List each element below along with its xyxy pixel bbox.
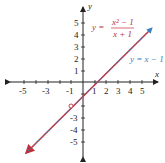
svg-text:-5: -5 bbox=[19, 86, 27, 96]
linear-equation-label: y = x − 1 bbox=[129, 54, 164, 64]
x-axis-label: x bbox=[154, 69, 159, 79]
svg-text:3: 3 bbox=[116, 86, 121, 96]
svg-text:5: 5 bbox=[74, 18, 79, 28]
svg-text:-3: -3 bbox=[42, 86, 50, 96]
rational-equation-label: y = x² − 1 x + 1 bbox=[91, 17, 134, 39]
svg-text:-5: -5 bbox=[70, 137, 78, 147]
function-graph: x y -5 -3 -1 1 2 3 4 5 5 bbox=[0, 0, 165, 163]
svg-text:5: 5 bbox=[140, 86, 145, 96]
svg-text:x + 1: x + 1 bbox=[112, 29, 132, 39]
hole-point bbox=[69, 104, 73, 108]
svg-text:1: 1 bbox=[74, 66, 79, 76]
axes: x y bbox=[10, 1, 159, 157]
y-axis-label: y bbox=[87, 1, 92, 11]
svg-text:x² − 1: x² − 1 bbox=[111, 17, 134, 27]
svg-text:3: 3 bbox=[74, 42, 79, 52]
x-tick-labels: -5 -3 -1 1 2 3 4 5 bbox=[19, 86, 145, 96]
svg-text:-4: -4 bbox=[70, 125, 78, 135]
svg-text:y =: y = bbox=[91, 22, 104, 32]
svg-text:4: 4 bbox=[74, 30, 79, 40]
svg-text:-3: -3 bbox=[70, 113, 78, 123]
svg-text:4: 4 bbox=[128, 86, 133, 96]
svg-text:-1: -1 bbox=[66, 86, 74, 96]
svg-text:2: 2 bbox=[74, 54, 79, 64]
svg-text:2: 2 bbox=[104, 86, 109, 96]
